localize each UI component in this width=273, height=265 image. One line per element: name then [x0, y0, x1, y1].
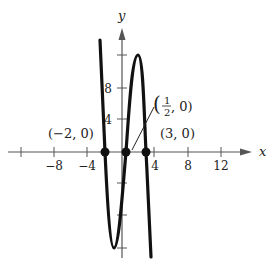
cubic-graph: −8 −4 4 8 12 x 8 4 y (−2, 0) (3, 0) ( 1 [0, 0, 273, 265]
x-tick-4: 4 [151, 159, 159, 173]
intercept-point-half [122, 148, 131, 157]
label-point-neg2: (−2, 0) [48, 126, 94, 141]
x-axis: −8 −4 4 8 12 x [8, 144, 267, 173]
y-tick-4: 4 [104, 113, 112, 127]
intercept-point-neg2 [101, 148, 110, 157]
y-tick-8: 8 [104, 82, 112, 96]
half-open-paren: ( [153, 92, 161, 116]
x-tick-12: 12 [213, 159, 228, 173]
x-tick-neg4: −4 [78, 159, 96, 173]
y-axis-arrow-icon [119, 28, 126, 40]
half-denominator: 2 [164, 107, 170, 118]
x-tick-8: 8 [184, 159, 192, 173]
y-axis-label: y [117, 8, 126, 23]
half-rest: , 0) [171, 99, 193, 114]
half-numerator: 1 [164, 95, 170, 106]
label-point-3: (3, 0) [160, 126, 195, 141]
x-axis-arrow-icon [240, 149, 252, 156]
x-tick-neg8: −8 [45, 159, 63, 173]
intercept-point-3 [142, 148, 151, 157]
x-axis-label: x [259, 144, 267, 159]
label-point-half: ( 1 2 , 0) [153, 92, 193, 118]
